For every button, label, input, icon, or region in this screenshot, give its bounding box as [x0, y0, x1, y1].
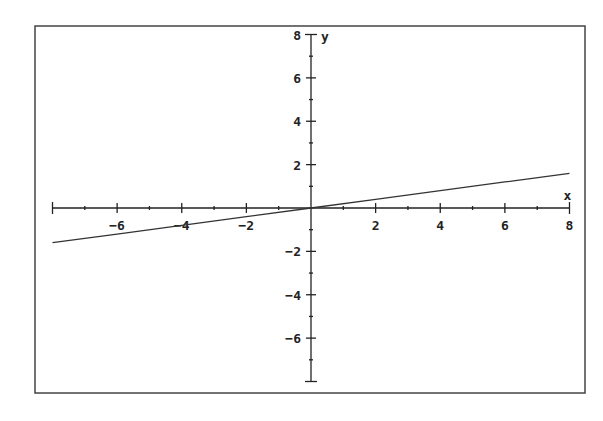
- y-tick-label: −6: [285, 331, 301, 346]
- x-tick-label: −6: [109, 218, 125, 233]
- y-tick-label: 6: [293, 71, 301, 86]
- x-tick-label: 8: [566, 218, 574, 233]
- y-tick-label: −4: [285, 288, 301, 303]
- y-tick-label: 2: [293, 158, 301, 173]
- y-axis-label: y: [321, 29, 329, 44]
- y-tick-label: 8: [293, 28, 301, 43]
- x-axis-label: x: [564, 188, 572, 203]
- x-tick-label: 4: [436, 218, 444, 233]
- x-tick-label: −2: [239, 218, 255, 233]
- x-tick-label: 2: [372, 218, 380, 233]
- axes: −6−4−224688642−2−4−6xy: [53, 28, 574, 382]
- function-plot: −6−4−224688642−2−4−6xy: [0, 0, 603, 421]
- y-tick-label: −2: [285, 244, 301, 259]
- x-tick-label: 6: [501, 218, 509, 233]
- y-tick-label: 4: [293, 114, 301, 129]
